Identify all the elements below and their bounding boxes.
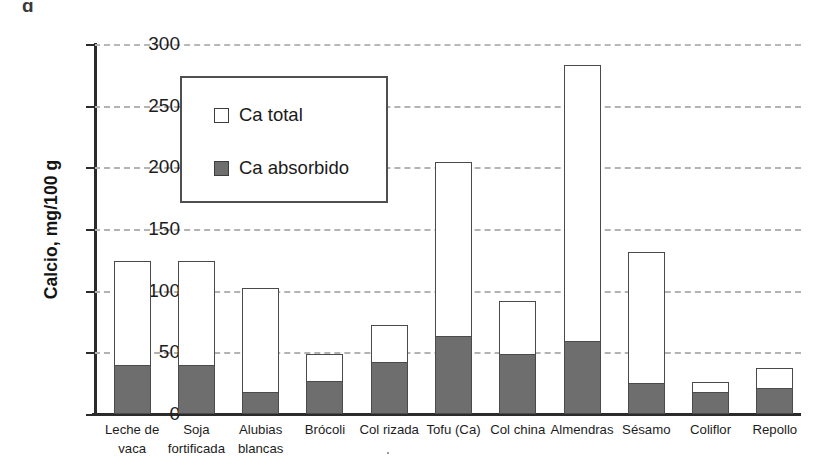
bar-ca-absorbido[interactable]: [242, 392, 279, 414]
bar-group[interactable]: [114, 261, 151, 414]
bar-ca-absorbido[interactable]: [628, 383, 665, 414]
x-category-label-line: Tofu (Ca): [417, 420, 489, 439]
x-category-label-line: Col rizada: [353, 420, 425, 439]
x-category-label: Col rizada: [353, 420, 425, 439]
bar-group[interactable]: [242, 288, 279, 414]
bar-ca-absorbido[interactable]: [114, 365, 151, 414]
bar-ca-absorbido[interactable]: [435, 336, 472, 414]
bar-ca-absorbido[interactable]: [756, 388, 793, 414]
x-category-label-line: Brócoli: [289, 420, 361, 439]
bar-ca-absorbido[interactable]: [692, 392, 729, 414]
bar-group[interactable]: [178, 261, 215, 414]
x-category-label: Sésamo: [610, 420, 682, 439]
bar-group[interactable]: [371, 325, 408, 414]
calcium-bar-chart: g Calcio, mg/100 g 300250200150100500 Le…: [0, 0, 822, 472]
bar-group[interactable]: [628, 252, 665, 414]
legend-swatch-ca-total-icon: [214, 108, 229, 123]
legend-label-ca-absorbido: Ca absorbido: [239, 157, 349, 179]
bar-group[interactable]: [692, 382, 729, 414]
bar-ca-absorbido[interactable]: [499, 354, 536, 414]
stray-mark: [387, 452, 389, 454]
x-category-label-line: Alubias: [225, 420, 297, 439]
x-category-label: Sojafortificada: [160, 420, 232, 458]
x-category-label: Almendras: [546, 420, 618, 439]
x-category-label: Repollo: [739, 420, 811, 439]
legend-entry-ca-total: Ca total: [214, 104, 303, 126]
y-axis-title: Calcio, mg/100 g: [41, 110, 62, 350]
x-axis-category-labels: Leche devacaSojafortificadaAlubiasblanca…: [94, 420, 801, 470]
x-category-label-line: Repollo: [739, 420, 811, 439]
x-category-label-line: vaca: [96, 439, 168, 458]
x-category-label-line: Soja: [160, 420, 232, 439]
legend-entry-ca-absorbido: Ca absorbido: [214, 157, 349, 179]
x-category-label-line: Almendras: [546, 420, 618, 439]
x-category-label-line: blancas: [225, 439, 297, 458]
bar-group[interactable]: [499, 301, 536, 414]
bar-ca-absorbido[interactable]: [564, 341, 601, 414]
bar-ca-absorbido[interactable]: [306, 381, 343, 414]
bar-group[interactable]: [435, 162, 472, 414]
x-category-label: Leche devaca: [96, 420, 168, 458]
x-category-label-line: Col china: [482, 420, 554, 439]
x-category-label-line: Coliflor: [674, 420, 746, 439]
bar-group[interactable]: [756, 368, 793, 414]
x-category-label-line: Leche de: [96, 420, 168, 439]
bar-group[interactable]: [306, 354, 343, 414]
x-category-label-line: fortificada: [160, 439, 232, 458]
top-partial-glyph: g: [22, 0, 48, 12]
x-category-label: Tofu (Ca): [417, 420, 489, 439]
legend-swatch-ca-absorbido-icon: [214, 161, 229, 176]
x-category-label: Alubiasblancas: [225, 420, 297, 458]
x-category-label: Col china: [482, 420, 554, 439]
legend-label-ca-total: Ca total: [239, 104, 303, 126]
bar-ca-absorbido[interactable]: [371, 362, 408, 414]
y-tick-mark-0: [86, 414, 95, 416]
bar-group[interactable]: [564, 65, 601, 414]
x-category-label: Coliflor: [674, 420, 746, 439]
x-category-label-line: Sésamo: [610, 420, 682, 439]
x-category-label: Brócoli: [289, 420, 361, 439]
legend: Ca total Ca absorbido: [180, 76, 388, 203]
bar-ca-absorbido[interactable]: [178, 365, 215, 414]
